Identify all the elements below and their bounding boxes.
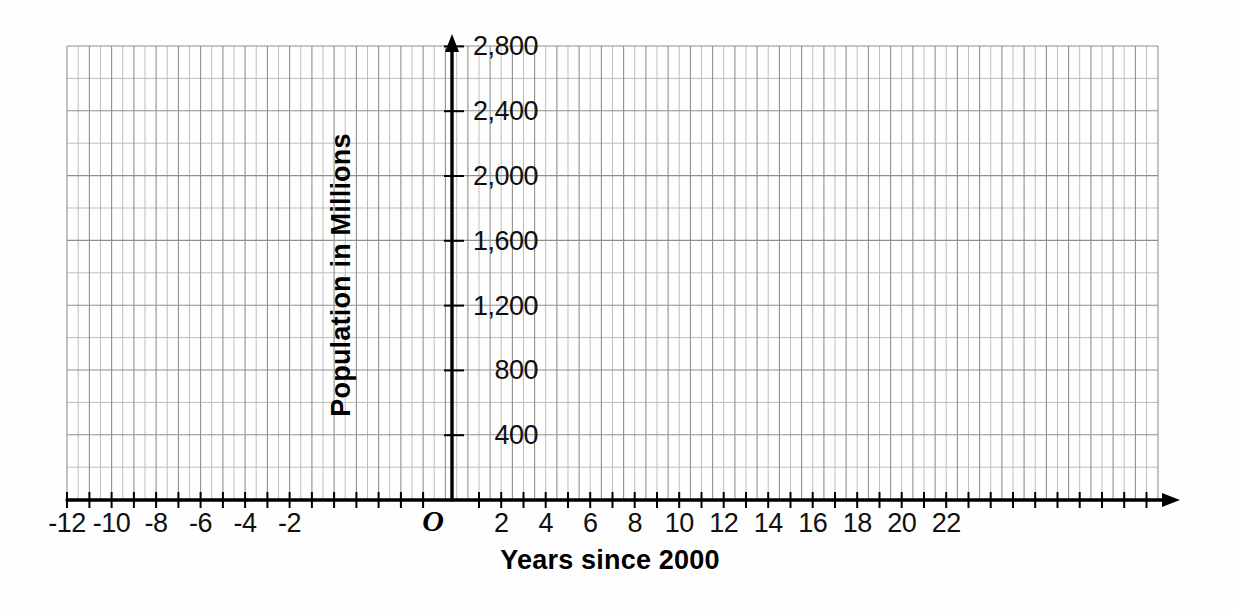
x-axis-title: Years since 2000 bbox=[500, 545, 719, 576]
y-tick-label: 800 bbox=[438, 355, 538, 386]
x-tick-label: 16 bbox=[798, 508, 827, 539]
x-tick-label: 8 bbox=[627, 508, 642, 539]
x-tick-label: 18 bbox=[843, 508, 872, 539]
x-tick-label: 22 bbox=[932, 508, 961, 539]
y-tick-label: 1,600 bbox=[421, 225, 538, 256]
x-tick-label: 12 bbox=[709, 508, 738, 539]
x-tick-label: -12 bbox=[48, 508, 86, 539]
x-tick-label: -10 bbox=[93, 508, 131, 539]
x-tick-label: -6 bbox=[189, 508, 212, 539]
x-tick-label: -8 bbox=[145, 508, 168, 539]
x-tick-label: -2 bbox=[278, 508, 301, 539]
x-tick-label: 4 bbox=[538, 508, 553, 539]
plot-area bbox=[0, 0, 1234, 612]
x-tick-label: 20 bbox=[887, 508, 916, 539]
origin-label: O bbox=[422, 504, 444, 538]
y-tick-label: 400 bbox=[438, 420, 538, 451]
x-tick-label: 14 bbox=[754, 508, 783, 539]
x-tick-label: 6 bbox=[583, 508, 598, 539]
y-tick-label: 1,200 bbox=[421, 290, 538, 321]
x-tick-label: 2 bbox=[494, 508, 509, 539]
y-axis-title: Population in Millions bbox=[326, 133, 357, 416]
y-tick-label: 2,400 bbox=[421, 96, 538, 127]
minor-gridlines bbox=[67, 46, 1158, 500]
x-tick-label: 10 bbox=[665, 508, 694, 539]
y-tick-label: 2,000 bbox=[421, 161, 538, 192]
graph-paper-chart: -12 -10 -8 -6 -4 -2 2 4 6 8 10 12 14 16 … bbox=[0, 0, 1234, 612]
x-tick-label: -4 bbox=[234, 508, 257, 539]
y-tick-label: 2,800 bbox=[421, 31, 538, 62]
